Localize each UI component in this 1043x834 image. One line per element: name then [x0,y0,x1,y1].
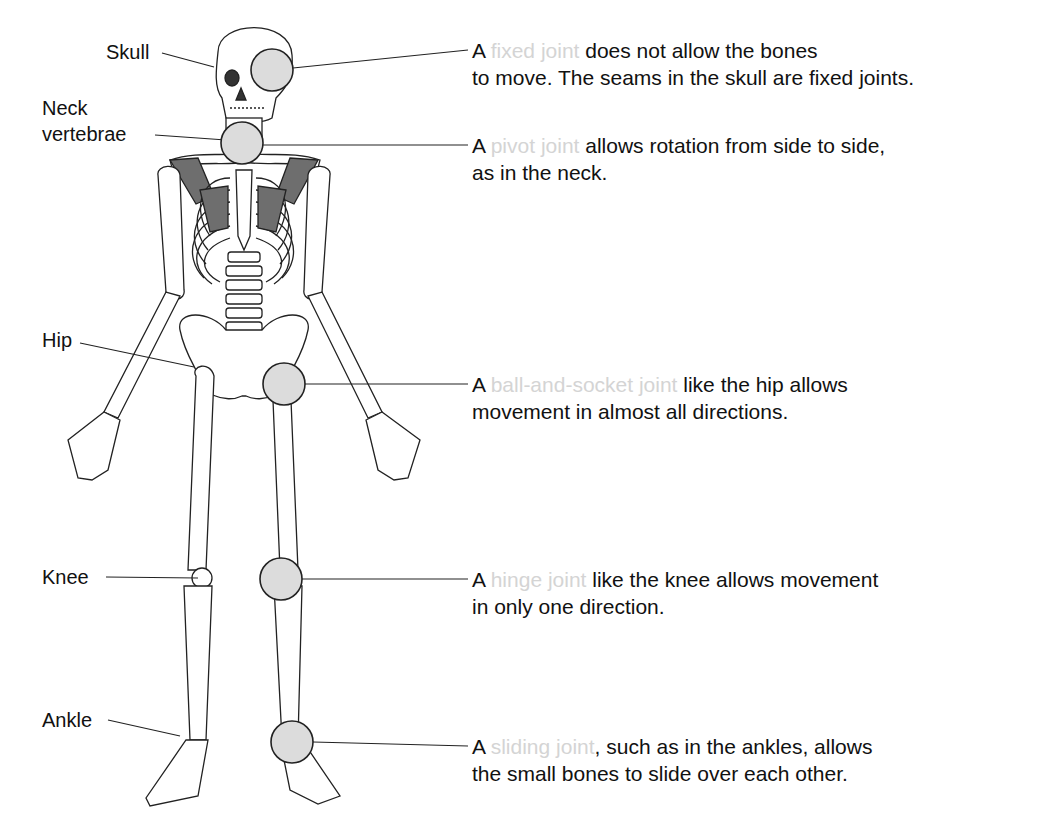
hinge-joint-description: A hinge joint like the knee allows movem… [472,566,878,620]
hip-label: Hip [42,328,72,352]
desc-prefix: A [472,568,491,591]
ball-and-socket-joint-marker [263,363,305,405]
desc-text-line2: movement in almost all directions. [472,398,848,425]
fixed-joint-marker [251,49,293,91]
desc-text: , such as in the ankles, allows [595,735,873,758]
neck-label-line2: vertebrae [42,122,127,146]
hinge-joint-term: hinge joint [491,568,587,591]
sliding-joint-marker [271,721,313,763]
desc-prefix: A [472,39,491,62]
desc-text-line2: as in the neck. [472,159,885,186]
desc-prefix: A [472,134,491,157]
pivot-joint-marker [221,122,263,164]
sliding-joint-term: sliding joint [491,735,595,758]
sliding-joint-description: A sliding joint, such as in the ankles, … [472,733,872,787]
desc-prefix: A [472,373,491,396]
desc-text-line2: in only one direction. [472,593,878,620]
desc-text: does not allow the bones [579,39,817,62]
desc-text: like the hip allows [677,373,847,396]
ankle-label: Ankle [42,708,92,732]
desc-text: like the knee allows movement [586,568,878,591]
desc-text-line2: to move. The seams in the skull are fixe… [472,64,914,91]
skull-label: Skull [106,40,149,64]
desc-prefix: A [472,735,491,758]
knee-label: Knee [42,565,89,589]
desc-text-line2: the small bones to slide over each other… [472,760,872,787]
neck-label-line1: Neck [42,96,88,120]
ball-and-socket-joint-term: ball-and-socket joint [491,373,678,396]
fixed-joint-term: fixed joint [491,39,580,62]
hinge-joint-marker [260,558,302,600]
pivot-joint-description: A pivot joint allows rotation from side … [472,132,885,186]
ball-and-socket-joint-description: A ball-and-socket joint like the hip all… [472,371,848,425]
fixed-joint-description: A fixed joint does not allow the bones t… [472,37,914,91]
pivot-joint-term: pivot joint [491,134,580,157]
desc-text: allows rotation from side to side, [579,134,885,157]
